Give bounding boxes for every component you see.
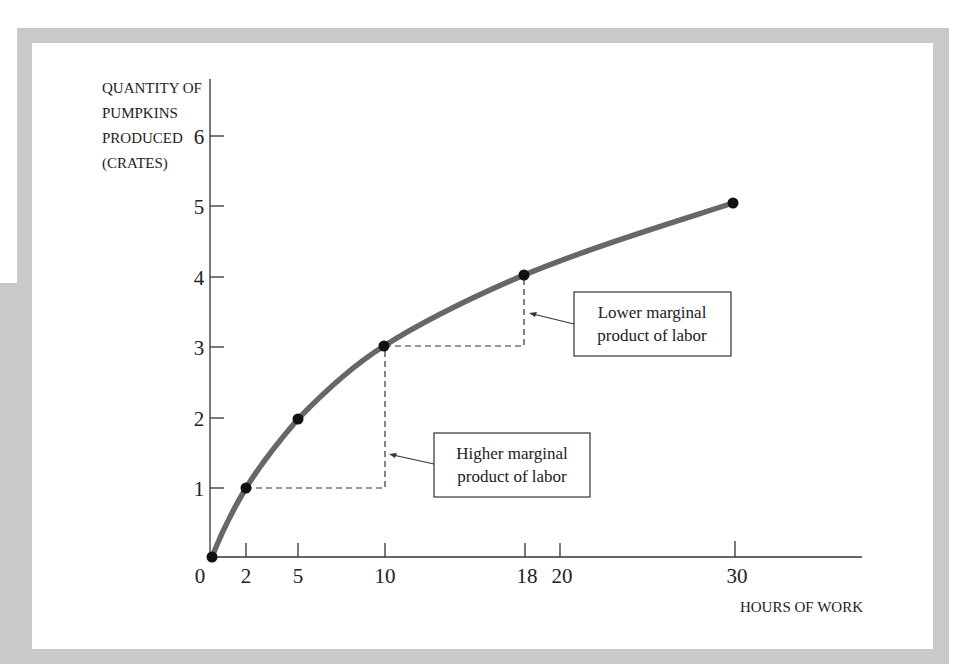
data-point	[519, 270, 530, 281]
production-function-curve	[212, 203, 733, 557]
y-axis-title-line: QUANTITY OF	[102, 80, 202, 96]
y-tick-label: 3	[194, 336, 205, 360]
x-tick-label: 10	[375, 564, 396, 588]
y-axis-title-line: (CRATES)	[102, 155, 168, 172]
callout-text-line: product of labor	[457, 467, 567, 486]
data-point	[293, 414, 304, 425]
data-point	[241, 483, 252, 494]
data-point	[379, 341, 390, 352]
arrow-icon	[533, 314, 574, 324]
production-function-chart: 1 2 3 4 5 6 0 2 5 10 18 20 30 QUANTITY O…	[0, 0, 968, 671]
callout-text-line: Higher marginal	[456, 444, 568, 463]
x-tick-label: 2	[241, 564, 252, 588]
data-points	[207, 198, 739, 563]
y-axis-title-line: PRODUCED	[102, 130, 183, 146]
y-tick-label: 6	[194, 125, 205, 149]
x-tick-label: 5	[293, 564, 304, 588]
y-tick-label: 1	[194, 477, 205, 501]
callout-higher-mpl: Higher marginal product of labor	[389, 433, 590, 497]
callout-text-line: product of labor	[597, 326, 707, 345]
callout-text-line: Lower marginal	[598, 303, 707, 322]
x-axis-title: HOURS OF WORK	[740, 599, 863, 615]
data-point	[207, 552, 218, 563]
data-point	[728, 198, 739, 209]
x-tick-label: 0	[195, 564, 206, 588]
y-tick-label: 4	[194, 266, 205, 290]
arrow-icon	[393, 455, 434, 464]
y-ticks	[210, 136, 224, 488]
y-tick-label: 2	[194, 407, 205, 431]
callout-lower-mpl: Lower marginal product of labor	[529, 292, 731, 356]
x-tick-label: 20	[552, 564, 573, 588]
x-ticks	[246, 541, 735, 557]
x-tick-label: 30	[727, 564, 748, 588]
x-tick-label: 18	[517, 564, 538, 588]
y-tick-label: 5	[194, 195, 205, 219]
y-axis-title-line: PUMPKINS	[102, 105, 178, 121]
arrowhead-icon	[529, 312, 537, 317]
arrowhead-icon	[389, 453, 397, 458]
